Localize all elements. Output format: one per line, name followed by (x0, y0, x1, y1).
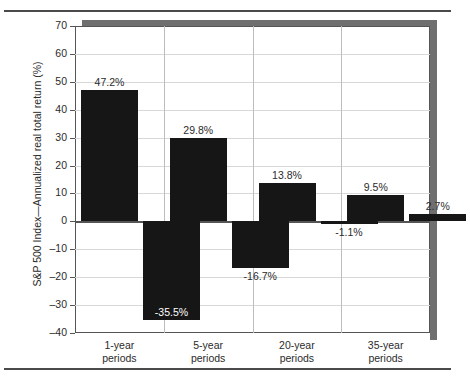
bar-value-label: 9.5% (340, 181, 411, 193)
y-tick-mark (70, 333, 75, 334)
bar (170, 138, 227, 221)
y-tick-label: –30 (33, 298, 67, 310)
y-tick-label: 20 (33, 159, 67, 171)
x-category-line1: 20-year (279, 339, 315, 351)
x-category-line1: 1-year (104, 339, 134, 351)
top-rule (4, 10, 451, 12)
x-category-line2: periods (280, 352, 314, 364)
bar (232, 221, 289, 268)
bar-value-label: 13.8% (252, 169, 323, 181)
bar-value-label: -1.1% (314, 226, 385, 238)
bar (81, 90, 138, 222)
y-tick-label: 40 (33, 103, 67, 115)
bar (321, 221, 378, 224)
x-category-label: 1-yearperiods (75, 339, 164, 365)
y-tick-label: 60 (33, 47, 67, 59)
bar-value-label: -35.5% (136, 306, 207, 318)
y-tick-label: –10 (33, 242, 67, 254)
y-tick-label: 70 (33, 19, 67, 31)
x-category-label: 5-yearperiods (164, 339, 253, 365)
x-category-line2: periods (368, 352, 402, 364)
y-tick-label: –20 (33, 270, 67, 282)
y-tick-label: –40 (33, 326, 67, 338)
x-category-line2: periods (191, 352, 225, 364)
x-category-line1: 35-year (368, 339, 404, 351)
bar-value-label: 47.2% (74, 76, 145, 88)
x-category-label: 20-yearperiods (253, 339, 342, 365)
y-tick-label: 50 (33, 75, 67, 87)
plot-shadow-right (430, 20, 437, 340)
x-category-label: 35-yearperiods (341, 339, 430, 365)
y-tick-label: 10 (33, 186, 67, 198)
bottom-rule (4, 368, 451, 370)
x-category-line2: periods (102, 352, 136, 364)
bar-value-label: 29.8% (163, 124, 234, 136)
plot-area: 706050403020100–10–20–30–40 47.2%-35.5%2… (75, 26, 430, 333)
bars-layer: 47.2%-35.5%29.8%-16.7%13.8%-1.1%9.5%2.7% (75, 26, 430, 333)
bar (409, 214, 466, 222)
y-tick-label: 30 (33, 131, 67, 143)
x-category-line1: 5-year (193, 339, 223, 351)
bar (347, 195, 404, 222)
bar-value-label: -16.7% (225, 270, 296, 282)
bar-value-label: 2.7% (402, 200, 470, 212)
y-tick-label: 0 (33, 214, 67, 226)
bar (259, 183, 316, 222)
